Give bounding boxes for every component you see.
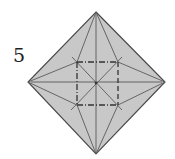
origami-diagram [0, 0, 175, 159]
center-point [95, 82, 98, 85]
